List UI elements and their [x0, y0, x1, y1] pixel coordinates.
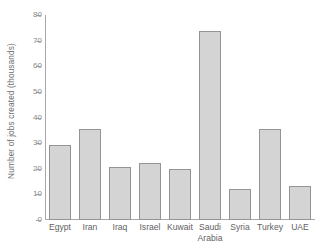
x-axis-labels: EgyptIranIraqIsraelKuwaitSaudiArabiaSyri…: [45, 222, 315, 252]
x-axis-tick-label: UAE: [278, 222, 320, 233]
bar: [139, 163, 161, 220]
y-tick-label: 40: [22, 114, 42, 122]
bar: [199, 31, 221, 220]
bar: [79, 129, 101, 220]
bar: [109, 167, 131, 220]
y-tick-label: 80: [22, 11, 42, 19]
y-tick-label: 30: [22, 139, 42, 147]
bar: [49, 145, 71, 220]
y-axis-label: Number of jobs created (thousands): [6, 43, 16, 179]
y-axis-ticks: 80706050403020100: [20, 0, 42, 252]
bar: [229, 189, 251, 220]
x-axis-tick-label-line: UAE: [278, 222, 320, 233]
y-axis-label-container: Number of jobs created (thousands): [0, 0, 22, 222]
y-tick-label: 70: [22, 37, 42, 45]
bar: [169, 169, 191, 221]
y-tick-label: 50: [22, 88, 42, 96]
y-tick-label: 20: [22, 165, 42, 173]
y-tick-label: 60: [22, 62, 42, 70]
bar-chart: Number of jobs created (thousands) 80706…: [0, 0, 320, 252]
y-tick-label: 10: [22, 190, 42, 198]
bar: [259, 129, 281, 220]
bar: [289, 186, 311, 220]
plot-area: [45, 15, 315, 220]
x-axis-tick-label-line: Arabia: [188, 233, 232, 244]
